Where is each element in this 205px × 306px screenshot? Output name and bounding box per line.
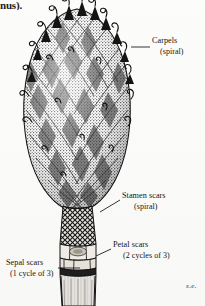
label-sepal-scars-title: Sepal scars (6, 258, 43, 267)
label-carpels-title: Carpels (152, 36, 177, 45)
label-carpels: Carpels (spiral) (152, 36, 184, 57)
stamen-scar-band (60, 206, 96, 246)
label-stamen-scars-title: Stamen scars (122, 191, 166, 200)
pedicel (60, 274, 96, 306)
label-carpels-sub: (spiral) (152, 47, 184, 58)
label-stamen-scars: Stamen scars (spiral) (122, 191, 166, 212)
label-sepal-scars: Sepal scars (1 cycle of 3) (6, 258, 54, 279)
label-sepal-scars-sub: (1 cycle of 3) (6, 269, 54, 280)
artist-signature: s.e. (186, 282, 197, 290)
label-petal-scars-sub: (2 cycles of 3) (113, 251, 170, 262)
label-petal-scars: Petal scars (2 cycles of 3) (113, 240, 170, 261)
petal-scar-band (60, 244, 96, 270)
clipped-caption: nus). (0, 0, 44, 10)
label-stamen-scars-sub: (spiral) (122, 202, 166, 213)
label-petal-scars-title: Petal scars (113, 240, 148, 249)
stamen-scar-collar (60, 206, 96, 246)
